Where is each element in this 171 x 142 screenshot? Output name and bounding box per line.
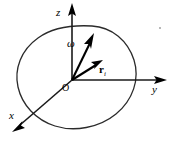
y-axis-label: y (152, 84, 157, 95)
artifact-speck (159, 27, 161, 29)
origin-label: O (62, 83, 69, 93)
position-vector-label: ri (99, 64, 106, 78)
position-vector-subscript: i (104, 70, 106, 78)
physics-diagram-figure: z y x O ω ri (0, 0, 171, 142)
z-axis-label: z (56, 7, 60, 18)
diagram-canvas (0, 0, 171, 142)
x-axis-label: x (9, 110, 14, 121)
angular-velocity-label: ω (67, 38, 75, 49)
